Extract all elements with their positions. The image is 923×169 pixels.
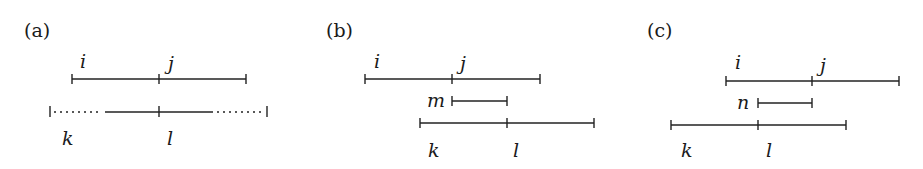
label-i: i	[735, 51, 741, 73]
panel-b: (b) i j m k l	[326, 19, 594, 161]
label-k: k	[681, 139, 693, 161]
interval-m	[452, 96, 507, 106]
interval-ij	[72, 74, 246, 84]
interval-kl	[50, 106, 267, 117]
label-m: m	[427, 89, 445, 111]
label-i: i	[374, 50, 380, 72]
label-j: j	[816, 54, 826, 76]
label-l: l	[513, 139, 519, 161]
panel-b-label: (b)	[326, 19, 353, 41]
panel-a: (a) i j k l	[24, 19, 267, 149]
panel-a-label: (a)	[24, 19, 50, 41]
panel-c: (c) i j n k l	[647, 19, 899, 161]
interval-diagram: (a) i j k l (b) i j	[0, 0, 923, 169]
label-k: k	[428, 139, 440, 161]
interval-kl	[420, 118, 594, 128]
interval-n	[758, 98, 812, 108]
label-n: n	[737, 91, 749, 113]
label-i: i	[80, 50, 86, 72]
panel-c-label: (c)	[647, 19, 672, 41]
label-j: j	[456, 52, 466, 74]
interval-ij	[365, 74, 540, 84]
label-l: l	[766, 139, 772, 161]
interval-kl	[671, 120, 846, 130]
label-l: l	[167, 127, 173, 149]
interval-ij	[726, 76, 899, 86]
label-k: k	[62, 127, 74, 149]
label-j: j	[164, 52, 174, 74]
